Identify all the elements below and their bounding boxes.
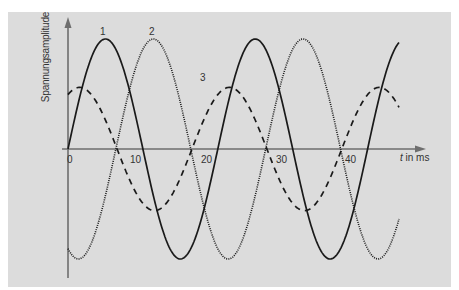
x-tick-20: 20 <box>201 155 212 165</box>
curve-2-label: 2 <box>149 27 155 37</box>
y-axis-arrow-icon <box>65 17 72 28</box>
y-axis-label: Spannungsamplitude <box>40 12 51 102</box>
x-tick-0: 0 <box>67 155 73 165</box>
x-axis-label: t in ms <box>400 153 429 163</box>
x-tick-10: 10 <box>130 155 141 165</box>
curve-1-label: 1 <box>100 27 106 37</box>
curve-3-label: 3 <box>200 73 206 83</box>
x-axis-unit: in ms <box>403 152 430 163</box>
x-tick-40: 40 <box>345 155 356 165</box>
chart-plot <box>0 0 459 290</box>
x-tick-30: 30 <box>276 155 287 165</box>
